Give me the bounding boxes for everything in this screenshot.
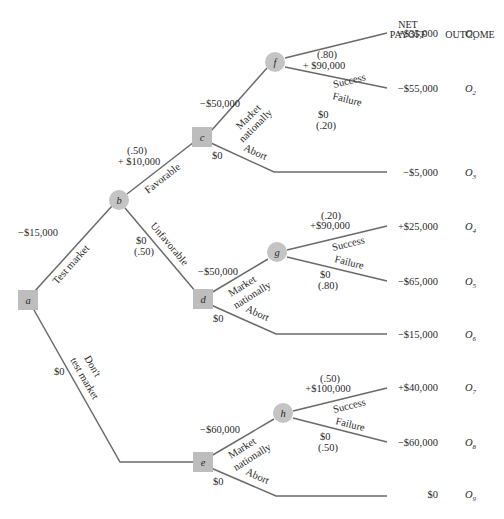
payoff-1: +$35,000 [398,28,438,39]
edge-a-e [34,310,196,462]
unfavorable-value: $0 [136,235,147,246]
payoff-4: +$25,000 [398,221,438,232]
d-abort-label: Abort [244,303,271,323]
h-failure-prob: (.50) [318,442,339,454]
node-a: a [18,290,38,310]
dont-test-value: $0 [54,366,65,377]
node-d: d [193,289,213,309]
g-failure-prob: (.80) [318,280,339,292]
payoff-3: −$5,000 [403,167,438,178]
g-failure-label: Failure [334,253,366,271]
outcome-7: O7 [465,382,477,396]
c-market-cost: −$50,000 [200,98,240,109]
outcome-4: O4 [465,221,477,235]
svg-text:a: a [25,295,30,306]
outcome-9: O9 [465,489,477,503]
svg-text:c: c [200,132,205,143]
node-e: e [193,452,213,472]
h-failure-value: $0 [320,431,331,442]
payoff-6: −$15,000 [398,329,438,340]
svg-text:b: b [116,195,121,206]
node-c: c [192,127,212,147]
payoff-9: $0 [428,489,439,500]
test-market-cost: −$15,000 [18,227,58,238]
f-success-value: + $90,000 [303,60,346,71]
outcome-2: O2 [465,83,477,97]
e-abort-value: $0 [213,476,224,487]
edge-c-abort [211,143,387,172]
f-failure-prob: (.20) [316,120,337,132]
c-abort-value: $0 [212,150,223,161]
outcome-5: O5 [465,276,477,290]
h-success-value: +$100,000 [305,383,350,394]
payoff-7: +$40,000 [398,382,438,393]
outcome-3: O3 [465,167,477,181]
svg-text:d: d [200,294,206,305]
payoff-5: −$65,000 [398,276,438,287]
node-h: h [273,403,293,423]
g-failure-value: $0 [320,269,331,280]
d-market-cost: −$50,000 [198,266,238,277]
f-success-label: Success [332,71,367,90]
d-abort-value: $0 [213,313,224,324]
payoff-column: +$35,000 −$55,000 −$5,000 +$25,000 −$65,… [398,28,438,500]
e-market-cost: −$60,000 [200,424,240,435]
svg-text:e: e [201,457,206,468]
f-failure-label: Failure [332,90,364,108]
svg-text:g: g [274,247,279,258]
decision-tree: a b c d e f g h NET PAYOFF OUTCOME −$15,… [0,0,504,519]
favorable-value: + $10,000 [118,156,161,167]
outcome-8: O8 [465,437,477,451]
unfavorable-prob: (.50) [134,246,155,258]
g-success-label: Success [331,234,366,253]
outcome-column: O1 O2 O3 O4 O5 O6 O7 O8 O9 [465,28,477,503]
edge-a-b [34,206,112,292]
h-success-label: Success [332,396,367,415]
node-f: f [265,52,285,72]
outcome-6: O6 [465,329,477,343]
svg-text:h: h [280,408,285,419]
g-success-value: +$90,000 [310,220,350,231]
payoff-8: −$60,000 [398,437,438,448]
test-market-label: Test market [50,242,91,286]
e-abort-label: Abort [244,466,271,486]
f-failure-value: $0 [318,109,329,120]
node-g: g [267,242,287,262]
payoff-2: −$55,000 [398,83,438,94]
node-b: b [109,190,129,210]
